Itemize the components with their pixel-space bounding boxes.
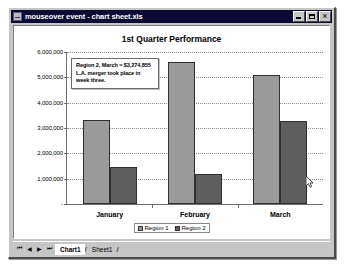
y-axis-tick-label: 2,000,000 — [37, 150, 63, 156]
tab-strip: Chart1/Sheet1/ — [55, 243, 330, 255]
y-axis-tick-label: 6,000,000 — [37, 49, 63, 55]
tooltip-line: L.A. merger took place in — [76, 70, 154, 78]
excel-window: mouseover event - chart sheet.xls 1st Qu… — [8, 7, 336, 259]
datapoint-tooltip: Region 2, March = $3,274,855 L.A. merger… — [71, 58, 159, 89]
legend-entry-region-2[interactable]: Region 2 — [175, 225, 206, 231]
tooltip-line: Region 2, March = $3,274,855 — [76, 62, 154, 70]
title-bar[interactable]: mouseover event - chart sheet.xls — [11, 10, 332, 23]
gridline — [67, 52, 323, 53]
y-axis-tick-label: 5,000,000 — [37, 74, 63, 80]
bar-january-region-2[interactable] — [110, 167, 137, 204]
next-sheet-button[interactable]: ▶ — [34, 243, 44, 254]
first-sheet-button[interactable]: ⏮ — [14, 243, 24, 254]
category-label-january: January — [96, 211, 123, 218]
y-axis-tick-mark — [64, 179, 67, 180]
tooltip-line: week three. — [76, 77, 154, 85]
window-title: mouseover event - chart sheet.xls — [25, 12, 292, 21]
y-axis-tick-mark — [64, 153, 67, 154]
sheet-tab-sheet1[interactable]: Sheet1 — [87, 244, 117, 255]
y-axis-tick-mark — [64, 103, 67, 104]
legend-swatch-icon — [137, 226, 142, 231]
excel-chart-icon — [13, 12, 22, 21]
gridline — [67, 103, 323, 104]
maximize-button[interactable] — [306, 11, 318, 22]
y-axis-tick-label: 4,000,000 — [37, 100, 63, 106]
category-divider-tick — [152, 204, 153, 208]
mouse-pointer-icon — [306, 176, 314, 188]
sheet-tab-bar: ⏮ ◀ ▶ ⏭ Chart1/Sheet1/ — [13, 241, 330, 255]
legend-swatch-icon — [175, 226, 180, 231]
sheet-tab-chart1[interactable]: Chart1 — [55, 244, 85, 255]
y-axis-tick-label: 3,000,000 — [37, 125, 63, 131]
legend-label: Region 2 — [182, 225, 206, 231]
chart-sheet-client-area: 1st Quarter Performance 6,000,0005,000,0… — [13, 25, 330, 239]
bar-march-region-1[interactable] — [253, 75, 280, 204]
bar-january-region-1[interactable] — [83, 120, 110, 204]
legend-entry-region-1[interactable]: Region 1 — [137, 225, 168, 231]
y-axis-tick-mark — [64, 204, 67, 205]
close-button[interactable] — [319, 11, 331, 22]
last-sheet-button[interactable]: ⏭ — [44, 243, 54, 254]
category-label-february: February — [180, 211, 210, 218]
category-label-march: March — [270, 211, 291, 218]
tab-separator: / — [116, 244, 118, 255]
bar-march-region-2[interactable] — [280, 121, 307, 204]
chart-legend[interactable]: Region 1Region 2 — [133, 223, 209, 233]
y-axis-tick-label: - — [61, 201, 63, 207]
y-axis-tick-label: 1,000,000 — [37, 176, 63, 182]
y-axis-tick-mark — [64, 77, 67, 78]
minimize-button[interactable] — [293, 11, 305, 22]
bar-february-region-2[interactable] — [195, 174, 222, 204]
bar-february-region-1[interactable] — [168, 62, 195, 204]
legend-label: Region 1 — [144, 225, 168, 231]
chart-plot-wrapper: 6,000,0005,000,0004,000,0003,000,0002,00… — [14, 26, 329, 238]
y-axis-tick-mark — [64, 128, 67, 129]
previous-sheet-button[interactable]: ◀ — [24, 243, 34, 254]
y-axis-tick-mark — [64, 52, 67, 53]
category-divider-tick — [238, 204, 239, 208]
